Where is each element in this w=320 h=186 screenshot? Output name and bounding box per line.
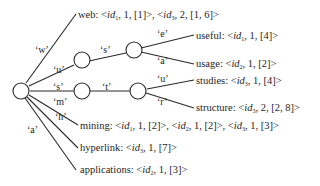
term-usage: usage: <id2, 1, [2]> xyxy=(196,58,276,73)
edge-u xyxy=(29,65,74,86)
term-mining: mining: <id1, 1, [2]>, <id2, 1, [2]>, <i… xyxy=(80,120,279,135)
edge-label-m: ‘m’ xyxy=(53,97,67,107)
term-useful: useful: <id1, 1, [4]> xyxy=(196,30,278,45)
edge-label-st-t: ‘t’ xyxy=(102,82,111,92)
edge-label-stu-u: ‘u’ xyxy=(157,74,169,84)
node-u xyxy=(74,52,90,68)
edge-stu xyxy=(147,80,194,89)
edge-w xyxy=(26,14,76,83)
edge-str xyxy=(146,93,194,108)
term-applications: applications: <id2, 1, [3]> xyxy=(80,164,187,179)
node-us xyxy=(126,42,142,58)
term-hyperlink: hyperlink: <id3, 1, [7]> xyxy=(80,142,177,157)
edge-label-use-e: ‘e’ xyxy=(157,29,168,39)
node-st xyxy=(130,83,146,99)
term-structure: structure: <id3, 2, [2, 8]> xyxy=(196,102,300,117)
term-studies: studies: <id3, 1, [4]> xyxy=(196,75,282,90)
node-s xyxy=(74,83,90,99)
edge-label-str-r: ‘r’ xyxy=(157,97,167,107)
term-web: web: <id1, 1, [1]>, <id3, 2, [1, 6]> xyxy=(78,9,219,24)
edge-label-s: ‘s’ xyxy=(53,82,64,92)
edge-label-a: ‘a’ xyxy=(27,125,38,135)
edge-label-usa-a: ‘a’ xyxy=(157,56,168,66)
edge-label-w: ‘w’ xyxy=(35,45,49,55)
edge-label-u: ‘u’ xyxy=(53,65,65,75)
edge-label-us-s: ‘s’ xyxy=(100,45,111,55)
root-node xyxy=(13,83,29,99)
edge-label-h: ‘h’ xyxy=(55,112,67,122)
